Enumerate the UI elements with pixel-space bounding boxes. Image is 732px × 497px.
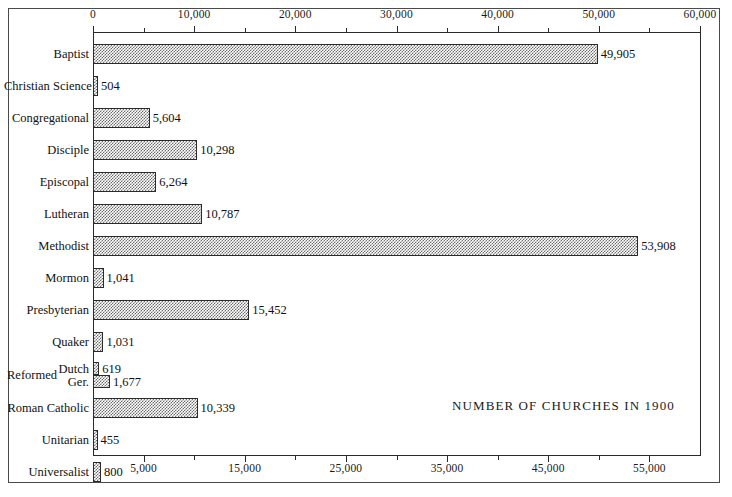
bottom-axis-minor-tick	[498, 455, 499, 460]
bar	[93, 268, 104, 288]
top-axis-tick-label: 40,000	[481, 8, 514, 20]
top-axis-tick	[93, 26, 94, 33]
bar-value-label: 619	[102, 363, 121, 376]
bar	[93, 172, 156, 192]
bar	[93, 236, 638, 256]
bottom-axis-tick-label: 55,000	[633, 462, 666, 474]
top-axis-minor-tick	[245, 28, 246, 33]
bar	[93, 332, 103, 352]
bar-value-label: 49,905	[601, 48, 635, 61]
bar-value-label: 1,031	[106, 336, 134, 349]
category-label: Congregational	[4, 112, 89, 125]
top-axis-tick	[295, 26, 296, 33]
category-sub-label: Ger.	[56, 376, 89, 389]
bar	[93, 430, 98, 450]
category-label: Mormon	[4, 272, 89, 285]
bar-value-label: 15,452	[252, 304, 286, 317]
bottom-axis-tick-label: 25,000	[329, 462, 362, 474]
category-label: Universalist	[4, 466, 89, 479]
top-axis-tick	[194, 26, 195, 33]
top-axis-tick-label: 0	[90, 8, 96, 20]
top-axis-tick	[397, 26, 398, 33]
category-label: Baptist	[4, 48, 89, 61]
chart-title: NUMBER OF CHURCHES IN 1900	[452, 398, 675, 414]
top-axis-minor-tick	[649, 28, 650, 33]
bottom-axis-tick	[245, 455, 246, 462]
bar	[93, 108, 150, 128]
top-axis-minor-tick	[548, 28, 549, 33]
bar	[93, 204, 202, 224]
bar-value-label: 10,339	[201, 402, 235, 415]
bottom-axis-minor-tick	[194, 455, 195, 460]
bottom-axis-tick-label: 5,000	[130, 462, 157, 474]
bottom-axis-tick	[649, 455, 650, 462]
category-label: Roman Catholic	[4, 402, 89, 415]
category-group-label-reformed: Reformed	[2, 369, 57, 382]
category-label: Lutheran	[4, 208, 89, 221]
bar-value-label: 6,264	[159, 176, 187, 189]
bar-value-label: 800	[104, 466, 123, 479]
right-axis-line	[700, 32, 701, 456]
top-axis-tick	[498, 26, 499, 33]
bar	[93, 375, 110, 388]
bar-value-label: 53,908	[641, 240, 675, 253]
top-axis-minor-tick	[346, 28, 347, 33]
bottom-axis-tick	[548, 455, 549, 462]
top-axis-tick-label: 10,000	[178, 8, 211, 20]
bar	[93, 362, 99, 375]
bottom-axis-tick-label: 45,000	[532, 462, 565, 474]
bottom-axis-tick	[144, 455, 145, 462]
top-axis-tick-label: 30,000	[380, 8, 413, 20]
bottom-axis-minor-tick	[599, 455, 600, 460]
bar	[93, 398, 198, 418]
bar	[93, 76, 98, 96]
bar	[93, 462, 101, 482]
bar	[93, 44, 598, 64]
bar-value-label: 1,041	[107, 272, 135, 285]
category-label: Quaker	[4, 336, 89, 349]
bottom-axis-tick	[346, 455, 347, 462]
bottom-axis-tick	[447, 455, 448, 462]
bar-value-label: 10,298	[200, 144, 234, 157]
bottom-axis-tick-label: 35,000	[431, 462, 464, 474]
category-label: Episcopal	[4, 176, 89, 189]
bottom-axis-tick-label: 15,000	[228, 462, 261, 474]
top-axis-tick-label: 60,000	[684, 8, 717, 20]
category-label: Methodist	[4, 240, 89, 253]
top-axis-tick	[700, 26, 701, 33]
top-axis-minor-tick	[447, 28, 448, 33]
bottom-axis-minor-tick	[397, 455, 398, 460]
bar-value-label: 10,787	[205, 208, 239, 221]
bar	[93, 300, 249, 320]
top-axis-tick-label: 20,000	[279, 8, 312, 20]
top-axis-tick-label: 50,000	[582, 8, 615, 20]
category-label: Christian Science	[4, 80, 89, 93]
top-axis-tick	[599, 26, 600, 33]
bar-value-label: 1,677	[113, 376, 141, 389]
bar-chart: 010,00020,00030,00040,00050,00060,0005,0…	[0, 0, 732, 497]
bar-value-label: 5,604	[153, 112, 181, 125]
category-label: Unitarian	[4, 434, 89, 447]
category-label: Disciple	[4, 144, 89, 157]
bar	[93, 140, 197, 160]
bar-value-label: 455	[101, 434, 120, 447]
top-axis-minor-tick	[144, 28, 145, 33]
bar-value-label: 504	[101, 80, 120, 93]
bottom-axis-minor-tick	[295, 455, 296, 460]
category-label: Presbyterian	[4, 304, 89, 317]
category-sub-label: Dutch	[56, 363, 89, 376]
